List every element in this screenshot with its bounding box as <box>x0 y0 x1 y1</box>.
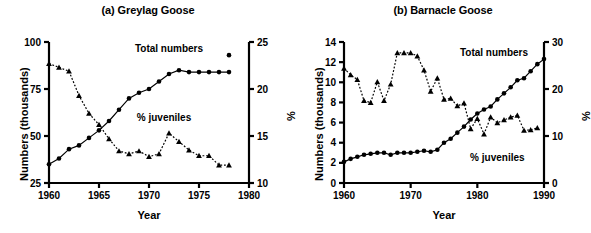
data-point-marker <box>137 90 142 95</box>
x-tick-label: 1980 <box>238 190 261 201</box>
data-point-marker <box>388 153 393 158</box>
panel-b-y2-axis-title: % <box>580 111 591 121</box>
data-point-marker <box>76 93 82 98</box>
data-point-marker <box>475 111 480 116</box>
data-point-marker <box>442 140 447 145</box>
data-point-marker <box>227 70 232 75</box>
data-point-marker <box>197 70 202 75</box>
y-tick-label: 14 <box>325 37 337 48</box>
data-point-marker <box>166 130 172 135</box>
x-tick-label: 1970 <box>138 190 161 201</box>
data-point-marker <box>495 97 500 102</box>
y-tick-label: 10 <box>325 77 337 88</box>
data-point-marker <box>521 127 527 132</box>
data-point-marker <box>434 75 440 80</box>
data-point-marker <box>402 150 407 155</box>
panel-a-plot: 2550751001015202519601965197019751980Tot… <box>0 0 296 233</box>
x-tick-label: 1980 <box>466 190 489 201</box>
y-tick-label: 4 <box>330 137 336 148</box>
data-point-marker <box>167 72 172 77</box>
data-point-marker <box>428 88 434 93</box>
x-tick-label: 1960 <box>38 190 61 201</box>
figure-container: (a) Greylag Goose 2550751001015202519601… <box>0 0 591 233</box>
data-point-marker <box>515 78 520 83</box>
data-point-marker <box>534 125 540 130</box>
data-point-marker <box>126 151 132 156</box>
data-point-marker <box>97 128 102 133</box>
data-point-marker <box>514 112 520 117</box>
data-point-marker <box>414 53 420 58</box>
data-point-marker <box>355 155 360 160</box>
y2-tick-label: 0 <box>552 178 558 189</box>
y-tick-label: 2 <box>330 157 336 168</box>
y-tick-label: 25 <box>30 178 42 189</box>
panel-b-y-axis-title: Numbers (thousands) <box>313 67 325 181</box>
data-point-marker <box>116 148 122 153</box>
data-point-marker <box>107 119 112 124</box>
data-point-marker <box>217 70 222 75</box>
data-point-marker <box>57 156 62 161</box>
y-tick-label: 100 <box>24 37 41 48</box>
y2-tick-label: 10 <box>257 178 269 189</box>
data-point-marker <box>368 151 373 156</box>
data-point-marker <box>382 150 387 155</box>
y-tick-label: 0 <box>330 178 336 189</box>
data-point-marker <box>156 151 162 156</box>
data-point-marker <box>455 130 460 135</box>
data-point-marker <box>528 69 533 74</box>
y-tick-label: 75 <box>30 84 42 95</box>
data-point-marker <box>421 67 427 72</box>
data-point-marker <box>375 150 380 155</box>
data-point-marker <box>67 147 72 152</box>
y-tick-label: 6 <box>330 117 336 128</box>
data-point-marker <box>46 61 52 66</box>
data-point-marker <box>47 162 52 167</box>
data-point-marker <box>448 136 453 141</box>
data-point-marker <box>488 114 494 119</box>
data-point-marker <box>348 72 354 77</box>
series-annotation-label: Total numbers <box>460 47 529 58</box>
data-point-marker <box>207 70 212 75</box>
data-point-marker <box>157 79 162 84</box>
data-point-marker <box>415 149 420 154</box>
data-point-marker <box>227 53 232 58</box>
data-point-marker <box>502 91 507 96</box>
data-point-marker <box>468 126 474 131</box>
data-point-marker <box>348 157 353 162</box>
data-point-marker <box>488 104 493 109</box>
data-point-marker <box>508 85 513 90</box>
series-line <box>344 59 544 162</box>
data-point-marker <box>136 148 142 153</box>
y2-tick-label: 15 <box>257 131 269 142</box>
data-point-marker <box>362 153 367 158</box>
panel-b-plot: 0246810121401020301960197019801990Total … <box>295 0 591 233</box>
y2-tick-label: 30 <box>552 37 564 48</box>
data-point-marker <box>117 107 122 112</box>
data-point-marker <box>422 148 427 153</box>
panel-a-x-axis-title: Year <box>49 209 249 221</box>
y2-tick-label: 20 <box>552 84 564 95</box>
data-point-marker <box>361 98 367 103</box>
data-point-marker <box>374 79 380 84</box>
data-point-marker <box>87 136 92 141</box>
x-tick-label: 1965 <box>88 190 111 201</box>
y-tick-label: 12 <box>325 57 337 68</box>
data-point-marker <box>177 68 182 73</box>
data-point-marker <box>394 50 400 55</box>
data-point-marker <box>388 81 394 86</box>
data-point-marker <box>187 70 192 75</box>
data-point-marker <box>408 150 413 155</box>
chart-panel-b: (b) Barnacle Goose 024681012140102030196… <box>295 0 591 233</box>
x-tick-label: 1970 <box>400 190 423 201</box>
y2-tick-label: 10 <box>552 131 564 142</box>
data-point-marker <box>381 98 387 103</box>
data-point-marker <box>474 116 480 121</box>
data-point-marker <box>147 87 152 92</box>
data-point-marker <box>435 147 440 152</box>
data-point-marker <box>196 153 202 158</box>
data-point-marker <box>395 150 400 155</box>
data-point-marker <box>428 149 433 154</box>
panel-b-x-axis-title: Year <box>344 209 544 221</box>
series-annotation-label: Total numbers <box>135 43 204 54</box>
y-tick-label: 50 <box>30 131 42 142</box>
